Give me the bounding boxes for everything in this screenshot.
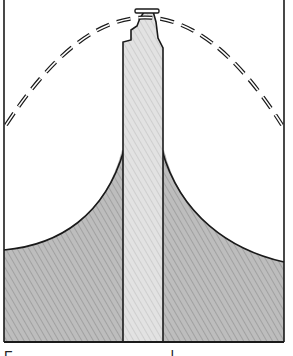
diagram-figure	[0, 0, 293, 356]
caption-fragment: F l	[4, 346, 177, 356]
column-cap	[135, 9, 159, 13]
central-column	[123, 11, 163, 342]
